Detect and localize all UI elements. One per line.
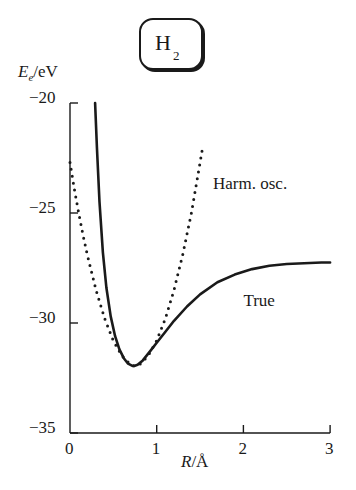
axes	[70, 103, 330, 433]
true-potential-curve	[95, 103, 330, 366]
harmonic-oscillator-curve	[70, 147, 203, 366]
plot-area	[0, 0, 356, 490]
curves	[70, 103, 330, 366]
